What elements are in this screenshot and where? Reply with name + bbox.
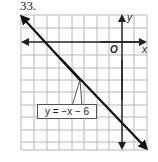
equation-label: y = −x − 6 (37, 104, 97, 119)
x-axis-label: x (142, 44, 147, 55)
y-axis-label: y (127, 12, 132, 23)
callout-pointer (72, 80, 82, 106)
origin-label: O (110, 44, 118, 55)
coordinate-plane (0, 0, 158, 162)
